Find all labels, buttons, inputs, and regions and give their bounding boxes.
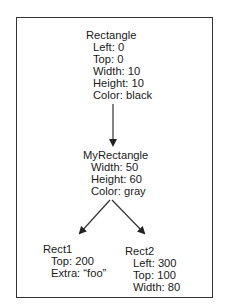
node-attribute: Width: 10 <box>93 65 152 77</box>
node-title: Rectangle <box>86 29 152 41</box>
node-attribute: Height: 60 <box>91 173 148 185</box>
node-attribute: Top: 200 <box>51 255 106 267</box>
node-rect1: Rect1 Top: 200 Extra: “foo” <box>43 243 106 279</box>
node-attribute: Left: 300 <box>133 257 180 269</box>
node-myrectangle: MyRectangle Width: 50 Height: 60 Color: … <box>83 149 148 197</box>
node-rect2: Rect2 Left: 300 Top: 100 Width: 80 <box>125 245 180 293</box>
edge-myrectangle-to-rect1 <box>80 200 110 233</box>
node-attribute: Width: 50 <box>91 161 148 173</box>
edge-myrectangle-to-rect2 <box>112 200 144 233</box>
node-title: Rect1 <box>43 243 106 255</box>
node-attribute: Extra: “foo” <box>51 267 106 279</box>
node-rectangle: Rectangle Left: 0 Top: 0 Width: 10 Heigh… <box>86 29 152 101</box>
node-attribute: Left: 0 <box>93 41 152 53</box>
node-title: Rect2 <box>125 245 180 257</box>
node-attribute: Top: 100 <box>133 269 180 281</box>
node-title: MyRectangle <box>83 149 148 161</box>
node-attribute: Top: 0 <box>93 53 152 65</box>
node-attribute: Height: 10 <box>93 77 152 89</box>
node-attribute: Width: 80 <box>133 281 180 293</box>
node-attribute: Color: black <box>93 89 152 101</box>
node-attribute: Color: gray <box>91 185 148 197</box>
